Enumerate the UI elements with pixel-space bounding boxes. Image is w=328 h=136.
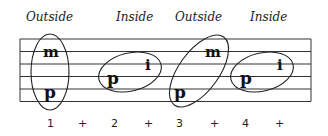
count-and-1: +: [78, 117, 87, 130]
count-2: 2: [111, 117, 118, 130]
header-label-inside-1: Inside: [115, 10, 153, 24]
count-and-2: +: [144, 117, 153, 130]
finger-i: i: [277, 56, 283, 74]
finger-p: p: [174, 82, 186, 102]
count-and-4: +: [275, 117, 284, 130]
count-1: 1: [47, 117, 54, 130]
finger-group-2: p i: [94, 46, 165, 98]
finger-p: p: [107, 68, 119, 88]
finger-p: p: [44, 82, 56, 102]
header-label-inside-2: Inside: [249, 10, 287, 24]
finger-pattern-diagram: Outside Inside Outside Inside m p p i p …: [0, 0, 328, 136]
header-label-outside-1: Outside: [26, 10, 73, 24]
finger-i: i: [145, 56, 151, 74]
header-label-outside-2: Outside: [175, 10, 222, 24]
count-row: 1 + 2 + 3 + 4 +: [47, 117, 284, 130]
finger-group-1: m p: [31, 34, 69, 110]
finger-m: m: [43, 43, 59, 61]
count-and-3: +: [210, 117, 219, 130]
grouping-oval-4: [226, 46, 297, 98]
tab-staff: [20, 39, 311, 102]
finger-m: m: [205, 43, 221, 61]
grouping-oval-2: [94, 46, 165, 98]
count-3: 3: [176, 117, 183, 130]
finger-p: p: [240, 68, 252, 88]
finger-group-4: p i: [226, 46, 297, 98]
count-4: 4: [242, 117, 249, 130]
